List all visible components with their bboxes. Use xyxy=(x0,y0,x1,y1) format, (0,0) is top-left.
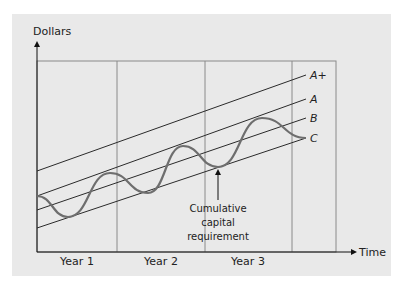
annotation-line-2: capital xyxy=(201,217,235,228)
line-label-b: B xyxy=(310,112,318,125)
capital-lines xyxy=(37,75,306,228)
line-label-a-plus: A+ xyxy=(309,69,327,82)
cumulative-capital-curve xyxy=(37,118,306,217)
line-label-a: A xyxy=(309,93,318,106)
line-label-c: C xyxy=(310,132,318,145)
capital-line xyxy=(37,99,306,196)
year-3-label: Year 3 xyxy=(230,255,265,268)
x-axis-label: Time xyxy=(358,246,386,259)
year-1-label: Year 1 xyxy=(59,255,94,268)
annotation-line-3: requirement xyxy=(187,231,249,242)
capital-requirement-chart: Dollars Time Year 1 Year 2 Year 3 A+ A B… xyxy=(0,0,406,292)
annotation-line-1: Cumulative xyxy=(189,203,246,214)
plot-frame xyxy=(37,61,336,252)
year-2-label: Year 2 xyxy=(143,255,178,268)
capital-line xyxy=(37,118,306,210)
y-axis-label: Dollars xyxy=(33,25,72,38)
